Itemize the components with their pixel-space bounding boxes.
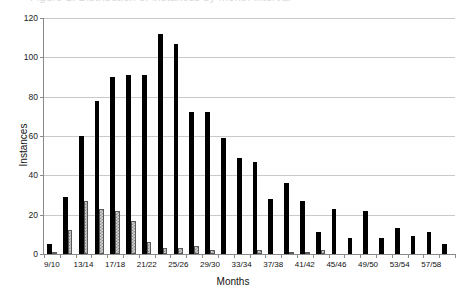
x-axis-tick bbox=[360, 254, 361, 258]
bar-series-1-29-30 bbox=[205, 112, 210, 254]
bar-series-2-17-18 bbox=[115, 211, 120, 254]
x-axis-tick bbox=[250, 254, 251, 258]
x-axis-tick-label: 37/38 bbox=[263, 260, 283, 269]
bar-series-2-35-36 bbox=[257, 250, 262, 254]
y-axis-tick-label: 120 bbox=[24, 13, 38, 23]
bar-series-1-39-40 bbox=[284, 183, 289, 254]
bar-series-2-9-10 bbox=[52, 252, 57, 254]
x-axis-tick bbox=[439, 254, 440, 258]
x-axis-tick bbox=[376, 254, 377, 258]
x-axis-tick bbox=[392, 254, 393, 258]
bar-series-1-33-34 bbox=[237, 158, 242, 254]
gridline bbox=[44, 215, 455, 216]
x-axis-tick bbox=[423, 254, 424, 258]
x-axis-tick bbox=[218, 254, 219, 258]
bar-series-2-11-12 bbox=[68, 230, 73, 254]
x-axis-tick-label: 33/34 bbox=[232, 260, 252, 269]
bar-series-1-45-46 bbox=[332, 209, 337, 254]
x-axis-tick bbox=[281, 254, 282, 258]
x-axis-tick bbox=[202, 254, 203, 258]
x-axis-tick bbox=[91, 254, 92, 258]
bar-series-2-41-42 bbox=[305, 252, 310, 254]
x-axis-tick-label: 25/26 bbox=[168, 260, 188, 269]
bar-series-2-23-24 bbox=[163, 248, 168, 254]
bar-series-2-29-30 bbox=[210, 250, 215, 254]
bar-series-2-27-28 bbox=[194, 246, 199, 254]
bar-series-1-37-38 bbox=[268, 199, 273, 254]
bar-series-1-49-50 bbox=[363, 211, 368, 254]
bar-series-1-31-32 bbox=[221, 138, 226, 254]
bar-series-1-51-52 bbox=[379, 238, 384, 254]
x-axis-tick-label: 45/46 bbox=[326, 260, 346, 269]
bar-series-2-21-22 bbox=[147, 242, 152, 254]
gridline bbox=[44, 57, 455, 58]
x-axis-tick-label: 17/18 bbox=[105, 260, 125, 269]
y-axis-tick bbox=[40, 18, 44, 19]
x-axis-tick bbox=[313, 254, 314, 258]
plot-area: 0204060801001209/1013/1417/1821/2225/262… bbox=[43, 18, 455, 255]
chart-title-clipped: Figure 1. Distribution of instances by m… bbox=[0, 0, 466, 8]
x-axis-tick-label: 9/10 bbox=[44, 260, 60, 269]
x-axis-tick bbox=[44, 254, 45, 258]
bar-series-1-25-26 bbox=[174, 44, 179, 254]
x-axis-tick-label: 21/22 bbox=[137, 260, 157, 269]
x-axis-tick bbox=[408, 254, 409, 258]
y-axis-tick-label: 40 bbox=[29, 170, 38, 180]
bar-series-2-13-14 bbox=[84, 201, 89, 254]
y-axis-tick-label: 60 bbox=[29, 131, 38, 141]
gridline bbox=[44, 97, 455, 98]
x-axis-tick bbox=[170, 254, 171, 258]
bar-series-2-43-44 bbox=[321, 250, 326, 254]
x-axis-tick bbox=[455, 254, 456, 258]
x-axis-tick bbox=[344, 254, 345, 258]
bar-series-1-55-56 bbox=[411, 236, 416, 254]
y-axis-tick bbox=[40, 136, 44, 137]
bar-series-2-15-16 bbox=[99, 209, 104, 254]
x-axis-tick-label: 41/42 bbox=[295, 260, 315, 269]
bar-series-1-35-36 bbox=[253, 162, 258, 254]
bar-series-1-53-54 bbox=[395, 228, 400, 254]
y-axis-tick bbox=[40, 57, 44, 58]
x-axis-tick bbox=[265, 254, 266, 258]
bar-series-1-41-42 bbox=[300, 201, 305, 254]
bar-series-2-19-20 bbox=[131, 221, 136, 254]
gridline bbox=[44, 175, 455, 176]
x-axis-tick bbox=[107, 254, 108, 258]
bar-series-2-25-26 bbox=[178, 248, 183, 254]
y-axis-tick-label: 0 bbox=[33, 249, 38, 259]
bar-series-1-57-58 bbox=[427, 232, 432, 254]
chart-figure: Figure 1. Distribution of instances by m… bbox=[0, 0, 466, 290]
gridline bbox=[44, 18, 455, 19]
y-axis-tick-label: 80 bbox=[29, 92, 38, 102]
x-axis-tick-label: 57/58 bbox=[421, 260, 441, 269]
x-axis-tick-label: 29/30 bbox=[200, 260, 220, 269]
y-axis-tick-label: 100 bbox=[24, 52, 38, 62]
bar-series-1-21-22 bbox=[142, 75, 147, 254]
bar-series-1-23-24 bbox=[158, 34, 163, 254]
x-axis-tick bbox=[123, 254, 124, 258]
x-axis-tick bbox=[60, 254, 61, 258]
x-axis-tick bbox=[297, 254, 298, 258]
x-axis-tick bbox=[139, 254, 140, 258]
bar-series-1-27-28 bbox=[189, 112, 194, 254]
x-axis-title: Months bbox=[0, 276, 466, 287]
chart-title-text: Figure 1. Distribution of instances by m… bbox=[30, 0, 291, 3]
x-axis-tick bbox=[234, 254, 235, 258]
y-axis-tick bbox=[40, 215, 44, 216]
y-axis-tick-label: 20 bbox=[29, 210, 38, 220]
x-axis-tick-label: 49/50 bbox=[358, 260, 378, 269]
x-axis-tick-label: 13/14 bbox=[74, 260, 94, 269]
y-axis-tick bbox=[40, 175, 44, 176]
bar-series-1-59-60 bbox=[442, 244, 447, 254]
x-axis-tick bbox=[186, 254, 187, 258]
y-axis-title: Instances bbox=[18, 124, 29, 167]
y-axis-tick bbox=[40, 97, 44, 98]
x-axis-tick bbox=[329, 254, 330, 258]
bar-series-1-47-48 bbox=[348, 238, 353, 254]
gridline bbox=[44, 136, 455, 137]
bar-series-2-39-40 bbox=[289, 252, 294, 254]
x-axis-tick-label: 53/54 bbox=[390, 260, 410, 269]
x-axis-tick bbox=[155, 254, 156, 258]
x-axis-tick bbox=[76, 254, 77, 258]
